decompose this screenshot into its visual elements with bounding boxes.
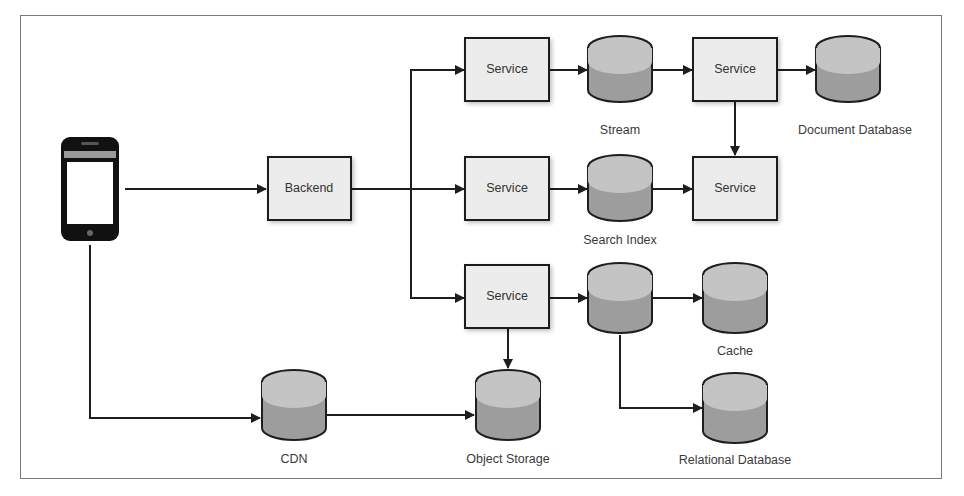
edge-backend-service-top	[411, 70, 464, 189]
box-service-top: Service	[465, 38, 549, 101]
architecture-diagram: Backend Service Service Service Service …	[0, 0, 964, 496]
box-label: Service	[714, 62, 756, 76]
database-document-db: Document Database	[798, 36, 912, 137]
box-service-mid: Service	[465, 157, 549, 220]
edge-backend-service-bottom	[411, 189, 464, 298]
database-label: Object Storage	[466, 452, 549, 466]
edges	[90, 70, 815, 418]
database-cache: Cache	[703, 263, 767, 358]
edge-db-relational	[620, 335, 702, 408]
box-label: Service	[486, 181, 528, 195]
box-label: Service	[486, 289, 528, 303]
mobile-phone-icon	[61, 137, 119, 241]
database-relational: Relational Database	[679, 373, 792, 467]
database-label: Cache	[717, 344, 753, 358]
box-service-mid-right: Service	[693, 157, 777, 220]
database-label: Relational Database	[679, 453, 792, 467]
database-label: Search Index	[583, 233, 657, 247]
database-cdn: CDN	[262, 370, 326, 466]
box-service-bottom: Service	[465, 265, 549, 328]
database-unlabeled	[588, 263, 652, 333]
database-label: Document Database	[798, 123, 912, 137]
box-backend: Backend	[268, 157, 351, 220]
edge-client-cdn	[90, 245, 260, 418]
database-label: Stream	[600, 123, 640, 137]
database-stream: Stream	[588, 36, 652, 137]
box-service-top-right: Service	[693, 38, 777, 101]
box-label: Service	[486, 62, 528, 76]
box-label: Service	[714, 181, 756, 195]
database-label: CDN	[280, 452, 307, 466]
database-search-index: Search Index	[583, 155, 657, 247]
box-label: Backend	[285, 181, 334, 195]
database-object-storage: Object Storage	[466, 370, 549, 466]
